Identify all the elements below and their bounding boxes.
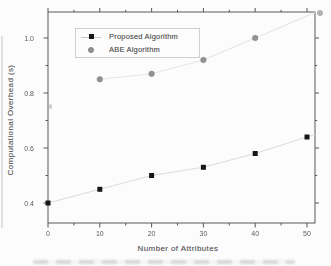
data-point-circle <box>252 35 258 41</box>
legend-marker-proposed <box>79 32 103 42</box>
x-tick-label: 40 <box>251 230 259 237</box>
trend-line-0 <box>48 135 315 204</box>
y-tick-label: 0.4 <box>24 200 34 207</box>
circle-marker-icon <box>88 47 94 53</box>
y-tick-label: 0.6 <box>24 145 34 152</box>
legend-item-abe: ABE Algorithm <box>79 43 196 56</box>
legend-label: ABE Algorithm <box>109 45 160 54</box>
legend-item-proposed: Proposed Algorithm <box>79 30 196 43</box>
square-marker-icon <box>89 34 94 39</box>
y-axis-title: Computational Overhead (s) <box>6 65 15 176</box>
x-tick-label: 50 <box>303 230 311 237</box>
data-point-circle <box>149 71 155 77</box>
x-tick-label: 30 <box>200 230 208 237</box>
data-point-circle <box>201 57 207 63</box>
x-tick-label: 0 <box>46 230 50 237</box>
x-tick-label: 10 <box>96 230 104 237</box>
legend: Proposed Algorithm ABE Algorithm <box>75 28 200 58</box>
x-tick-label: 20 <box>148 230 156 237</box>
data-point-circle <box>97 77 103 83</box>
data-point-square <box>201 165 206 170</box>
y-tick-label: 1.0 <box>24 35 34 42</box>
data-point-square <box>149 173 154 178</box>
y-tick-label: 0.8 <box>24 90 34 97</box>
figure: 010203040500.40.60.81.0 Computational Ov… <box>0 0 331 266</box>
legend-marker-abe <box>79 45 103 55</box>
legend-label: Proposed Algorithm <box>109 32 178 41</box>
data-point-square <box>97 187 102 192</box>
x-axis-title: Number of Attributes <box>138 244 219 253</box>
data-point-square <box>253 151 258 156</box>
data-point-square <box>46 201 51 206</box>
data-point-square <box>305 135 310 140</box>
